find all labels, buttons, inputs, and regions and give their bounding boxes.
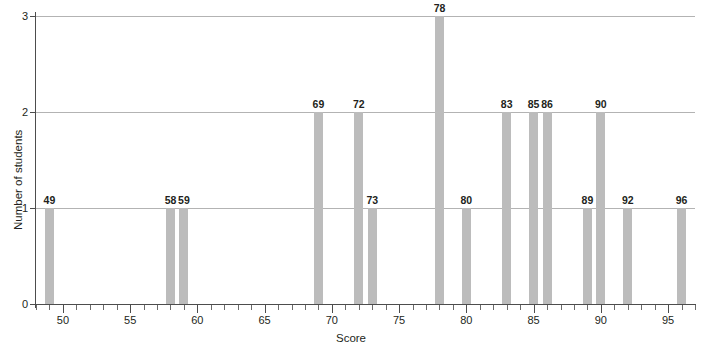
x-tick-minor	[614, 305, 615, 310]
x-tick-minor	[211, 305, 212, 310]
x-tick-minor	[117, 305, 118, 310]
bar	[354, 112, 363, 304]
x-tick-minor	[292, 305, 293, 310]
x-tick-label: 90	[595, 314, 607, 326]
x-tick-minor	[574, 305, 575, 310]
x-tick-minor	[426, 305, 427, 310]
x-tick-minor	[655, 305, 656, 310]
x-tick-major	[63, 305, 64, 313]
x-tick-label: 65	[259, 314, 271, 326]
x-tick-minor	[453, 305, 454, 310]
x-tick-minor	[103, 305, 104, 310]
x-tick-major	[601, 305, 602, 313]
x-tick-major	[399, 305, 400, 313]
x-tick-minor	[49, 305, 50, 310]
x-tick-minor	[359, 305, 360, 310]
x-tick-minor	[413, 305, 414, 310]
bar-label: 59	[178, 194, 190, 206]
bar-label: 85	[528, 98, 540, 110]
bar	[543, 112, 552, 304]
bar-label: 78	[434, 2, 446, 14]
y-axis-title: Number of students	[12, 130, 24, 230]
bar	[502, 112, 511, 304]
x-tick-minor	[238, 305, 239, 310]
bar	[462, 208, 471, 304]
bar	[583, 208, 592, 304]
bar-label: 73	[366, 194, 378, 206]
bar-label: 80	[461, 194, 473, 206]
x-tick-major	[197, 305, 198, 313]
x-tick-major	[668, 305, 669, 313]
x-tick-minor	[224, 305, 225, 310]
x-tick-minor	[439, 305, 440, 310]
x-tick-minor	[76, 305, 77, 310]
bar-label: 83	[501, 98, 513, 110]
x-tick-minor	[641, 305, 642, 310]
x-tick-label: 60	[191, 314, 203, 326]
x-tick-minor	[547, 305, 548, 310]
bar-label: 72	[353, 98, 365, 110]
x-axis-title: Score	[0, 332, 702, 344]
x-tick-minor	[561, 305, 562, 310]
plot-area	[36, 16, 695, 304]
x-tick-minor	[184, 305, 185, 310]
bar-label: 89	[582, 194, 594, 206]
x-tick-minor	[628, 305, 629, 310]
x-tick-minor	[305, 305, 306, 310]
x-tick-label: 75	[393, 314, 405, 326]
x-tick-major	[534, 305, 535, 313]
bar-label: 92	[622, 194, 634, 206]
bar	[179, 208, 188, 304]
bar	[435, 16, 444, 304]
bar	[529, 112, 538, 304]
x-tick-minor	[278, 305, 279, 310]
x-tick-major	[265, 305, 266, 313]
x-tick-minor	[36, 305, 37, 310]
x-tick-minor	[90, 305, 91, 310]
histogram-chart: 0123 50556065707580859095 49585969727378…	[0, 0, 702, 354]
x-tick-minor	[520, 305, 521, 310]
y-tick-label: 3	[14, 10, 28, 22]
bar-label: 58	[165, 194, 177, 206]
bar	[166, 208, 175, 304]
x-tick-label: 55	[124, 314, 136, 326]
bar	[368, 208, 377, 304]
bar-label: 86	[541, 98, 553, 110]
x-tick-major	[130, 305, 131, 313]
y-tick-label: 2	[14, 106, 28, 118]
x-tick-minor	[251, 305, 252, 310]
bar-series	[36, 16, 695, 304]
x-tick-major	[466, 305, 467, 313]
bar	[45, 208, 54, 304]
bar-label: 49	[44, 194, 56, 206]
x-tick-minor	[157, 305, 158, 310]
x-tick-label: 95	[662, 314, 674, 326]
bar	[677, 208, 686, 304]
x-tick-minor	[170, 305, 171, 310]
x-tick-minor	[493, 305, 494, 310]
bar-label: 69	[313, 98, 325, 110]
x-tick-minor	[386, 305, 387, 310]
bar	[596, 112, 605, 304]
bar-label: 90	[595, 98, 607, 110]
x-tick-minor	[318, 305, 319, 310]
x-tick-label: 80	[460, 314, 472, 326]
x-tick-label: 85	[527, 314, 539, 326]
x-tick-label: 50	[57, 314, 69, 326]
x-tick-minor	[695, 305, 696, 310]
x-tick-minor	[480, 305, 481, 310]
x-tick-label: 70	[326, 314, 338, 326]
x-tick-minor	[587, 305, 588, 310]
x-tick-major	[332, 305, 333, 313]
x-tick-minor	[682, 305, 683, 310]
x-tick-minor	[345, 305, 346, 310]
bar-label: 96	[676, 194, 688, 206]
x-tick-minor	[144, 305, 145, 310]
bar	[623, 208, 632, 304]
y-tick-label: 0	[14, 298, 28, 310]
x-tick-minor	[372, 305, 373, 310]
x-tick-minor	[507, 305, 508, 310]
bar	[314, 112, 323, 304]
